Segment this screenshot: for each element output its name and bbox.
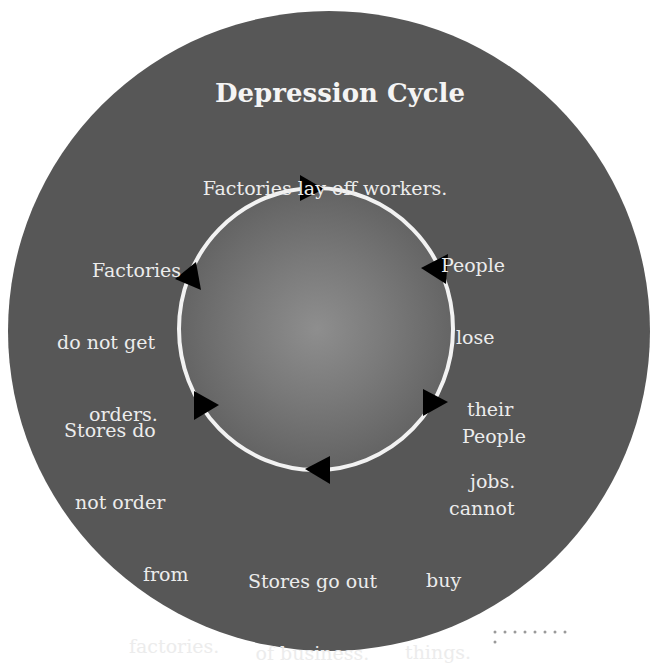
arrow-icon (305, 456, 330, 484)
step-label-factories-no-orders: Factories do not get orders. (57, 210, 207, 474)
step-label-people-cannot-buy: People cannot buy things. (405, 376, 535, 667)
step-label-stores-go-out: Stores go out of business. (210, 521, 415, 667)
step-label-factories-lay-off: Factories lay off workers. (170, 128, 480, 248)
diagram-title: Depression Cycle (215, 78, 465, 108)
